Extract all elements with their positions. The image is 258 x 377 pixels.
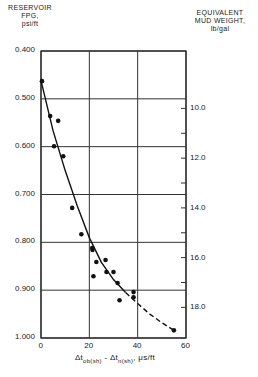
data-point <box>56 119 61 124</box>
data-point <box>131 295 136 300</box>
data-point <box>48 114 53 119</box>
data-point <box>91 274 96 279</box>
x-axis-label-text: Δtob(sh) - Δtn(sh), μs/ft <box>75 353 155 362</box>
data-point <box>103 258 108 263</box>
data-point <box>79 232 84 237</box>
data-point <box>61 154 66 159</box>
y2-tick-label: 14.0 <box>190 204 206 212</box>
x-tick-label: 20 <box>84 342 93 350</box>
data-point <box>131 290 136 295</box>
data-point <box>172 328 177 333</box>
data-point <box>40 79 45 84</box>
data-point <box>111 270 116 275</box>
y-tick-label: 0.700 <box>15 190 35 198</box>
y-tick-label: 1.000 <box>15 333 35 341</box>
data-point <box>70 206 75 211</box>
y-tick-label: 0.900 <box>15 285 35 293</box>
x-axis-label: Δtob(sh) - Δtn(sh), μs/ft <box>40 354 190 365</box>
data-point <box>52 144 57 149</box>
y2-tick-label: 16.0 <box>190 254 206 262</box>
x-tick-label: 0 <box>39 342 43 350</box>
x-tick-label: 40 <box>133 342 142 350</box>
y-tick-label: 0.400 <box>15 46 35 54</box>
y-tick-label: 0.500 <box>15 94 35 102</box>
y2-tick-label: 10.0 <box>190 104 206 112</box>
y2-tick-label: 12.0 <box>190 154 206 162</box>
x-tick-label: 60 <box>181 342 190 350</box>
trend-curve-solid <box>41 81 126 293</box>
data-point <box>117 298 122 303</box>
y-tick-label: 0.800 <box>15 237 35 245</box>
y2-tick-label: 18.0 <box>190 303 206 311</box>
data-point <box>90 248 95 253</box>
y-tick-label: 0.600 <box>15 142 35 150</box>
data-point <box>104 270 109 275</box>
data-point <box>94 260 99 265</box>
data-point <box>115 281 120 286</box>
chart-plot <box>0 0 258 377</box>
